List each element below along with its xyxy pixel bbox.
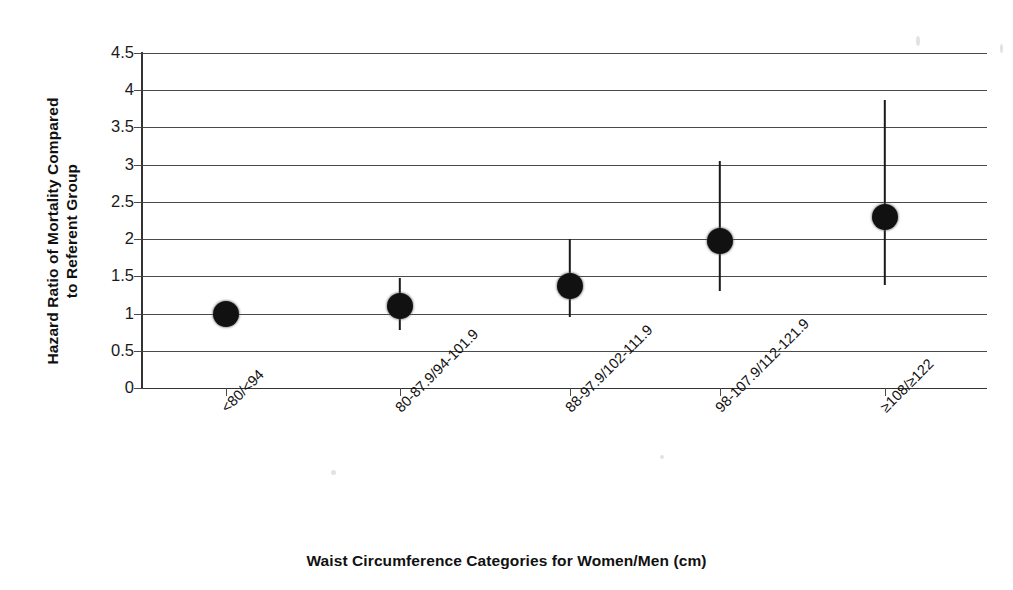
y-tick-label: 4.5 [74, 43, 134, 62]
gridline [141, 388, 987, 389]
y-tick-label: 2.5 [74, 192, 134, 211]
y-tick-label: 1.5 [74, 266, 134, 285]
y-tick-label: 0 [74, 378, 134, 397]
data-point-marker [557, 273, 583, 299]
data-series [141, 53, 987, 388]
confidence-interval-bar [884, 100, 886, 285]
x-axis-title: Waist Circumference Categories for Women… [0, 552, 1013, 570]
scan-artifact [916, 36, 920, 46]
y-tick-label: 3.5 [74, 117, 134, 136]
data-point-marker [707, 228, 733, 254]
y-tick-label: 0.5 [74, 341, 134, 360]
y-tick-label: 2 [74, 229, 134, 248]
plot-area [141, 53, 987, 388]
scan-artifact [331, 470, 336, 475]
y-axis-tick [134, 388, 142, 389]
confidence-interval-bar [719, 161, 721, 291]
data-point-marker [213, 301, 239, 327]
y-tick-label: 4 [74, 80, 134, 99]
scan-artifact [660, 455, 664, 459]
data-point-marker [872, 204, 898, 230]
scan-artifact [1000, 44, 1003, 53]
y-tick-label: 3 [74, 155, 134, 174]
data-point-marker [387, 293, 413, 319]
hazard-ratio-chart: Hazard Ratio of Mortality Compared to Re… [0, 0, 1013, 590]
y-tick-label: 1 [74, 304, 134, 323]
